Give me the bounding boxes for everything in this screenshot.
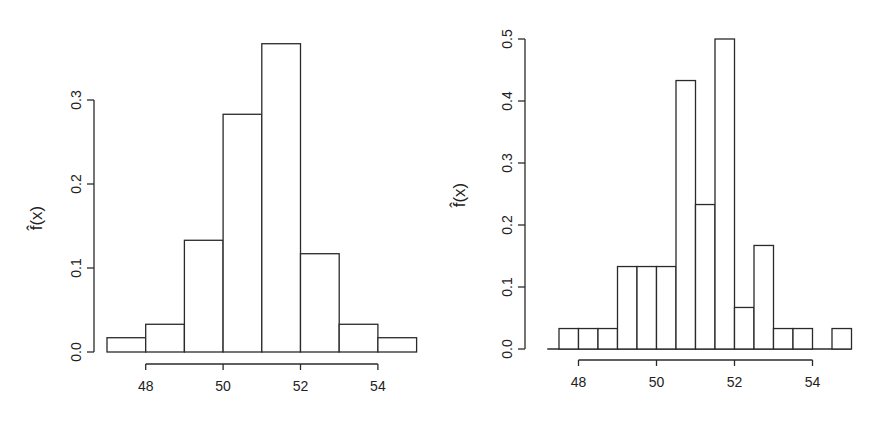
histogram-bar xyxy=(146,324,185,352)
y-axis-label: f̂(x) xyxy=(26,206,46,231)
x-tick-label: 54 xyxy=(805,374,821,390)
histogram-bar xyxy=(696,205,716,349)
y-tick-label: 0.3 xyxy=(499,153,515,173)
histogram-left: 0.00.10.20.348505254f̂(x) xyxy=(26,44,416,394)
x-tick-label: 50 xyxy=(215,378,231,394)
x-tick-label: 48 xyxy=(138,378,154,394)
x-tick-label: 54 xyxy=(370,378,386,394)
histogram-bar xyxy=(579,329,599,349)
x-tick-label: 50 xyxy=(649,374,665,390)
y-tick-label: 0.0 xyxy=(68,342,84,362)
x-tick-label: 52 xyxy=(727,374,743,390)
histogram-bar xyxy=(793,329,813,349)
histogram-bar xyxy=(618,267,638,349)
histogram-bar xyxy=(223,114,262,352)
y-tick-label: 0.0 xyxy=(499,339,515,359)
histogram-bar xyxy=(184,240,223,352)
histogram-bar xyxy=(107,338,146,352)
histogram-bar xyxy=(301,254,340,352)
x-tick-label: 52 xyxy=(293,378,309,394)
y-tick-label: 0.4 xyxy=(499,91,515,111)
histogram-bar xyxy=(754,245,774,349)
histogram-bar xyxy=(559,329,579,349)
histogram-bar xyxy=(715,39,735,349)
y-tick-label: 0.2 xyxy=(499,215,515,235)
histogram-bar xyxy=(339,324,378,352)
y-tick-label: 0.3 xyxy=(68,90,84,110)
histogram-bar xyxy=(676,81,696,349)
y-axis-label: f̂(x) xyxy=(449,183,469,208)
y-tick-label: 0.1 xyxy=(499,277,515,297)
histogram-bar xyxy=(657,267,677,349)
y-tick-label: 0.1 xyxy=(68,258,84,278)
histogram-bar xyxy=(832,329,852,349)
y-tick-label: 0.5 xyxy=(499,29,515,49)
histogram-bar xyxy=(774,329,794,349)
histogram-bar xyxy=(735,307,755,349)
histogram-bar xyxy=(378,338,417,352)
histogram-bar xyxy=(598,329,618,349)
x-tick-label: 48 xyxy=(571,374,587,390)
histogram-bar xyxy=(637,267,657,349)
histogram-right: 0.00.10.20.30.40.548505254f̂(x) xyxy=(449,29,851,390)
y-tick-label: 0.2 xyxy=(68,174,84,194)
histogram-bar xyxy=(262,44,301,352)
